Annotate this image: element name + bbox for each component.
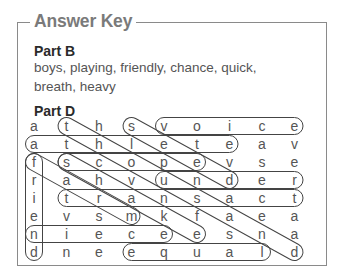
grid-letter: a [220,207,240,225]
grid-letter: n [252,225,272,243]
grid-letter: e [285,153,305,171]
grid-letter: r [89,189,109,207]
grid-letter: u [187,243,207,261]
grid-letter: s [57,153,77,171]
grid-letter: s [89,207,109,225]
grid-letter: n [24,225,44,243]
grid-letter: s [187,189,207,207]
grid-letter: e [24,207,44,225]
grid-letter: t [57,135,77,153]
grid-letter: n [154,189,174,207]
grid-letter: o [122,153,142,171]
grid-letter: i [57,225,77,243]
grid-letter: e [220,135,240,153]
grid-letter: k [154,207,174,225]
grid-letter: e [154,135,174,153]
grid-letter: l [122,135,142,153]
grid-letter: d [285,243,305,261]
grid-letter: v [154,117,174,135]
grid-letter: i [220,117,240,135]
grid-letter: i [24,189,44,207]
grid-letter: a [285,207,305,225]
grid-letter: d [24,243,44,261]
grid-letter: q [154,243,174,261]
grid-letter: h [89,171,109,189]
grid-letter: a [220,189,240,207]
grid-letter: t [57,189,77,207]
grid-letter: n [187,171,207,189]
grid-letter: e [252,207,272,225]
grid-letter: e [89,243,109,261]
grid-letter: p [154,153,174,171]
grid-letter: h [89,135,109,153]
grid-letter: a [122,189,142,207]
grid-letter: f [24,153,44,171]
grid-letter: e [154,225,174,243]
grid-letter: e [252,171,272,189]
grid-letter: l [252,243,272,261]
word-search-grid: athsvoiceathleteavfscopevserahvunderitra… [0,0,345,280]
grid-letter: e [285,117,305,135]
grid-letter: v [122,171,142,189]
grid-letter: e [187,153,207,171]
grid-letter: m [122,207,142,225]
grid-letter: u [154,171,174,189]
grid-letter: a [57,171,77,189]
grid-letter: s [220,225,240,243]
grid-letter: e [122,243,142,261]
grid-letter: a [252,135,272,153]
grid-letter: c [89,153,109,171]
grid-letter: e [89,225,109,243]
grid-letter: c [252,189,272,207]
grid-letter: h [89,117,109,135]
grid-letter: c [122,225,142,243]
grid-letter: v [285,135,305,153]
grid-letter: a [220,243,240,261]
grid-letter: r [24,171,44,189]
grid-letter: o [187,117,207,135]
grid-letter: n [57,243,77,261]
grid-letter: a [24,117,44,135]
grid-letter: t [57,117,77,135]
grid-letter: v [220,153,240,171]
grid-letter: s [122,117,142,135]
grid-letter: a [24,135,44,153]
grid-letter: t [285,189,305,207]
grid-letter: t [187,135,207,153]
grid-letter: f [187,207,207,225]
grid-letter: s [252,153,272,171]
grid-letter: c [252,117,272,135]
grid-letter: v [57,207,77,225]
grid-letter: d [220,171,240,189]
grid-letter: a [285,225,305,243]
grid-letter: e [187,225,207,243]
grid-letter: r [285,171,305,189]
